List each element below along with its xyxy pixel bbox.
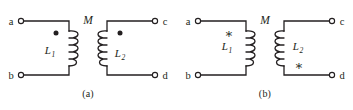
inductor-label-L1: L1 [221,40,232,55]
panel-caption-b: (b) [177,88,353,99]
terminal-ring-d[interactable] [152,72,157,77]
inductor-label-L2: L2 [114,47,126,62]
terminal-label-c: c [340,16,345,27]
polarity-dot-icon-L2 [118,31,123,36]
terminal-label-c: c [163,16,168,27]
terminal-ring-b[interactable] [18,72,23,77]
polarity-asterisk-icon-L2: ∗ [295,58,304,73]
wire-b-to-L1-bottom [201,66,246,75]
terminal-label-d: d [339,70,345,81]
circuit-figure-a: a b c d M L1 L2 (a) [0,0,176,110]
terminal-ring-d[interactable] [329,72,334,77]
wire-a-to-L1-top [201,21,246,31]
inductor-coil-L2 [98,31,107,66]
mutual-inductance-label-M: M [82,14,94,26]
terminal-label-d: d [162,70,168,81]
mutual-inductance-label-M: M [259,14,271,26]
polarity-dot-icon-L1 [54,31,59,36]
inductor-coil-L2 [275,31,284,66]
terminal-label-a: a [9,16,14,27]
polarity-asterisk-icon-L1: ∗ [225,26,234,41]
figure-root: a b c d M L1 L2 (a) a [0,0,353,110]
terminal-label-b: b [8,70,13,81]
wire-L2-bottom-to-d [284,66,329,75]
inductor-label-L2: L2 [292,40,304,55]
inductor-label-L1: L1 [44,44,55,59]
terminal-ring-a[interactable] [195,18,200,23]
circuit-diagram-a: a b c d M L1 L2 [0,0,176,92]
circuit-diagram-b: a b c d M ∗ ∗ L1 L2 [177,0,353,92]
inductor-coil-L1 [246,31,255,66]
wire-L2-top-to-c [107,21,152,31]
terminal-ring-a[interactable] [18,18,23,23]
circuit-figure-b: a b c d M ∗ ∗ L1 L2 (b) [177,0,353,110]
terminal-label-a: a [186,16,191,27]
wire-a-to-L1-top [24,21,69,31]
terminal-label-b: b [185,70,190,81]
panel-caption-a: (a) [0,88,176,99]
terminal-ring-c[interactable] [152,18,157,23]
wire-L2-bottom-to-d [107,66,152,75]
wire-L2-top-to-c [284,21,329,31]
terminal-ring-b[interactable] [195,72,200,77]
terminal-ring-c[interactable] [329,18,334,23]
wire-b-to-L1-bottom [24,66,69,75]
inductor-coil-L1 [69,31,78,66]
